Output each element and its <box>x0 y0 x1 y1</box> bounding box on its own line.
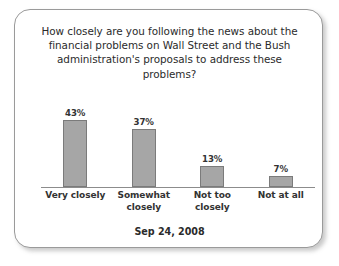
chart-screenshot: How closely are you following the news a… <box>0 0 339 266</box>
bar-value-label: 13% <box>202 154 222 164</box>
x-tick-label-not-too-closely: Not too closely <box>178 190 247 213</box>
chart-title: How closely are you following the news a… <box>31 24 308 81</box>
bar-value-label: 7% <box>274 164 288 174</box>
bar-rect[interactable] <box>132 129 156 187</box>
x-tick-label-not-at-all: Not at all <box>247 190 316 213</box>
chart-card: How closely are you following the news a… <box>14 9 323 248</box>
bar-value-label: 37% <box>134 117 154 127</box>
bar-value-label: 43% <box>65 108 85 118</box>
bar-rect[interactable] <box>63 120 87 187</box>
bar-series: 43% 37% 13% 7% <box>41 86 315 187</box>
x-axis-tick-labels: Very closely Somewhat closely Not too cl… <box>41 190 315 213</box>
x-tick-label-very-closely: Very closely <box>41 190 110 213</box>
bar-group: 13% <box>178 86 247 187</box>
bar-group: 43% <box>41 86 110 187</box>
bar-rect[interactable] <box>200 166 224 187</box>
x-tick-label-somewhat-closely: Somewhat closely <box>110 190 179 213</box>
bar-rect[interactable] <box>269 176 293 187</box>
bar-group: 7% <box>247 86 316 187</box>
date-caption: Sep 24, 2008 <box>31 226 308 237</box>
bar-group: 37% <box>110 86 179 187</box>
x-axis-line <box>41 187 315 189</box>
plot-area: 43% 37% 13% 7% <box>21 85 318 188</box>
